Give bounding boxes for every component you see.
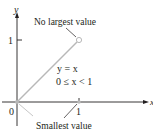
x-axis-arrow-icon bbox=[143, 100, 149, 104]
y-tick-label: 1 bbox=[8, 35, 13, 46]
equation-label: y = x bbox=[57, 63, 78, 74]
min-leader-line bbox=[19, 104, 33, 116]
max-annotation: No largest value bbox=[34, 17, 96, 27]
max-leader-line bbox=[66, 28, 76, 37]
open-endpoint bbox=[76, 37, 81, 42]
min-annotation: Smallest value bbox=[36, 121, 92, 131]
origin-label: 0 bbox=[9, 106, 14, 117]
x-tick-label: 1 bbox=[76, 106, 81, 117]
x-axis-label: x bbox=[149, 97, 153, 107]
closed-endpoint bbox=[15, 100, 19, 104]
domain-label: 0 ≤ x < 1 bbox=[56, 76, 92, 87]
function-diagram: y x 1 0 1 No largest value Smallest valu… bbox=[0, 0, 153, 140]
x-one-marker bbox=[77, 100, 81, 104]
y-axis-label: y bbox=[13, 4, 19, 15]
